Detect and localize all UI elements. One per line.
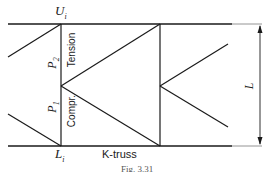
k-arm-upper-right — [160, 44, 228, 86]
node-label-lower: Li — [55, 146, 64, 164]
dimension-arrow-top-icon — [258, 25, 263, 33]
node-label-lower-sub: i — [62, 155, 64, 164]
diagram-title: K-truss — [102, 148, 137, 160]
member-type-compression: Compr. — [66, 86, 80, 136]
figure-caption: Fig. 3.31 — [121, 164, 153, 172]
member-label-p1: P1 — [45, 93, 59, 121]
dimension-label: L — [242, 74, 256, 98]
k-arm-lower-right — [160, 86, 228, 127]
k-truss-diagram — [0, 0, 271, 172]
node-label-upper-sub: i — [64, 12, 66, 21]
node-label-upper: Ui — [55, 3, 67, 21]
member-label-p2: P2 — [45, 49, 59, 77]
member-type-tension: Tension — [66, 25, 80, 75]
dimension-arrow-bottom-icon — [258, 137, 263, 145]
